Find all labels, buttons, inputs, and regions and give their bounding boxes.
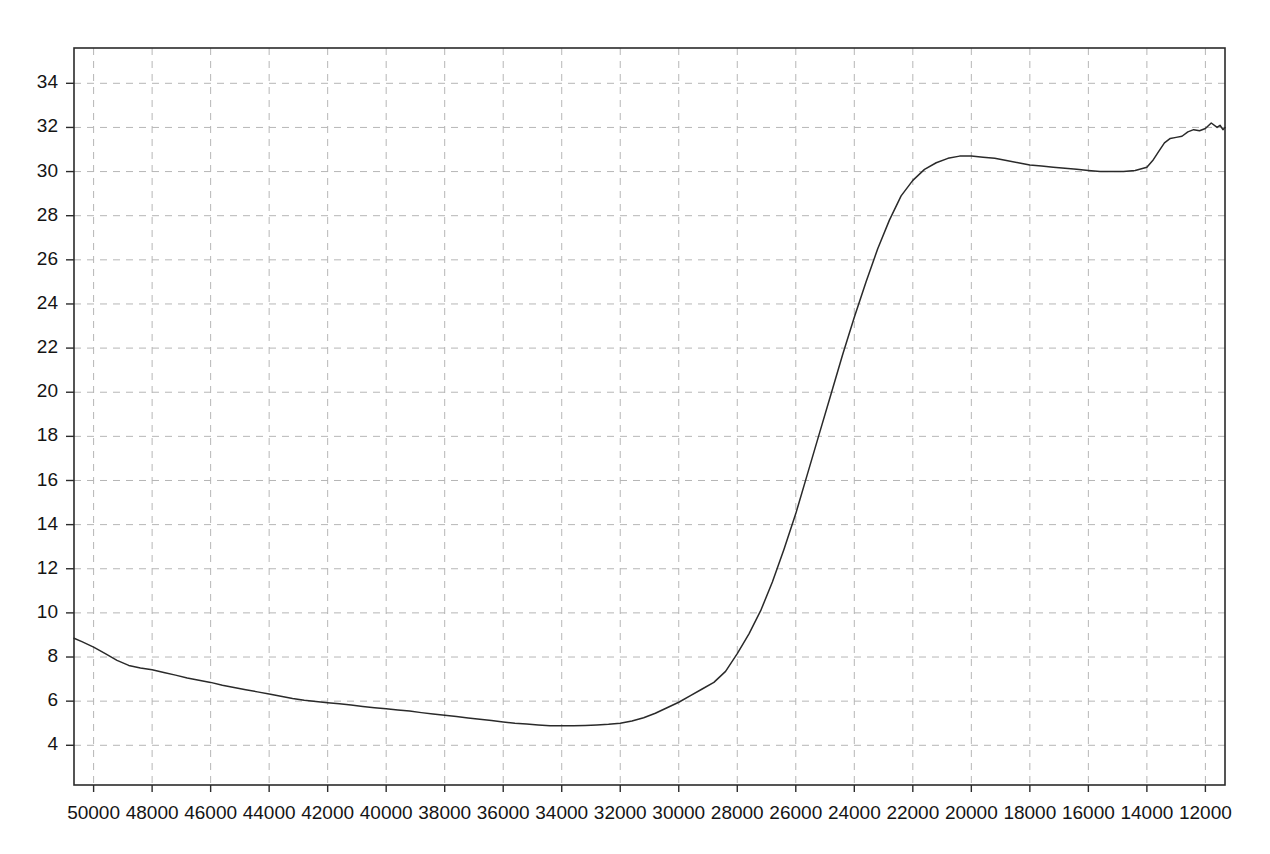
x-tick-label: 42000: [301, 802, 354, 823]
line-chart-svg: 5000048000460004400042000400003800036000…: [0, 0, 1270, 854]
y-tick-label: 32: [37, 115, 58, 136]
x-tick-label: 20000: [945, 802, 998, 823]
y-tick-label: 4: [47, 733, 58, 754]
x-tick-label: 18000: [1003, 802, 1056, 823]
x-tick-label: 40000: [360, 802, 413, 823]
x-tick-label: 22000: [886, 802, 939, 823]
y-tick-label: 8: [47, 645, 58, 666]
x-tick-label: 36000: [477, 802, 530, 823]
y-tick-label: 26: [37, 248, 58, 269]
x-tick-label: 44000: [243, 802, 296, 823]
x-tick-label: 38000: [418, 802, 471, 823]
chart-background: [0, 0, 1270, 854]
y-tick-label: 6: [47, 689, 58, 710]
x-tick-label: 32000: [594, 802, 647, 823]
y-tick-label: 18: [37, 424, 58, 445]
y-tick-label: 14: [37, 513, 59, 534]
x-tick-label: 30000: [652, 802, 705, 823]
x-tick-label: 24000: [828, 802, 881, 823]
x-tick-label: 50000: [67, 802, 120, 823]
y-tick-label: 28: [37, 204, 58, 225]
y-tick-label: 10: [37, 601, 58, 622]
y-tick-label: 16: [37, 469, 58, 490]
y-tick-label: 24: [37, 292, 59, 313]
x-tick-label: 16000: [1062, 802, 1115, 823]
y-tick-label: 30: [37, 160, 58, 181]
x-tick-label: 46000: [184, 802, 237, 823]
y-tick-label: 12: [37, 557, 58, 578]
y-tick-label: 20: [37, 380, 58, 401]
x-tick-label: 12000: [1179, 802, 1232, 823]
y-tick-label: 22: [37, 336, 58, 357]
x-tick-label: 14000: [1120, 802, 1173, 823]
x-tick-label: 34000: [535, 802, 588, 823]
x-tick-label: 48000: [126, 802, 179, 823]
y-tick-label: 34: [37, 71, 59, 92]
chart-figure: 5000048000460004400042000400003800036000…: [0, 0, 1270, 854]
x-tick-label: 26000: [769, 802, 822, 823]
x-tick-label: 28000: [711, 802, 764, 823]
